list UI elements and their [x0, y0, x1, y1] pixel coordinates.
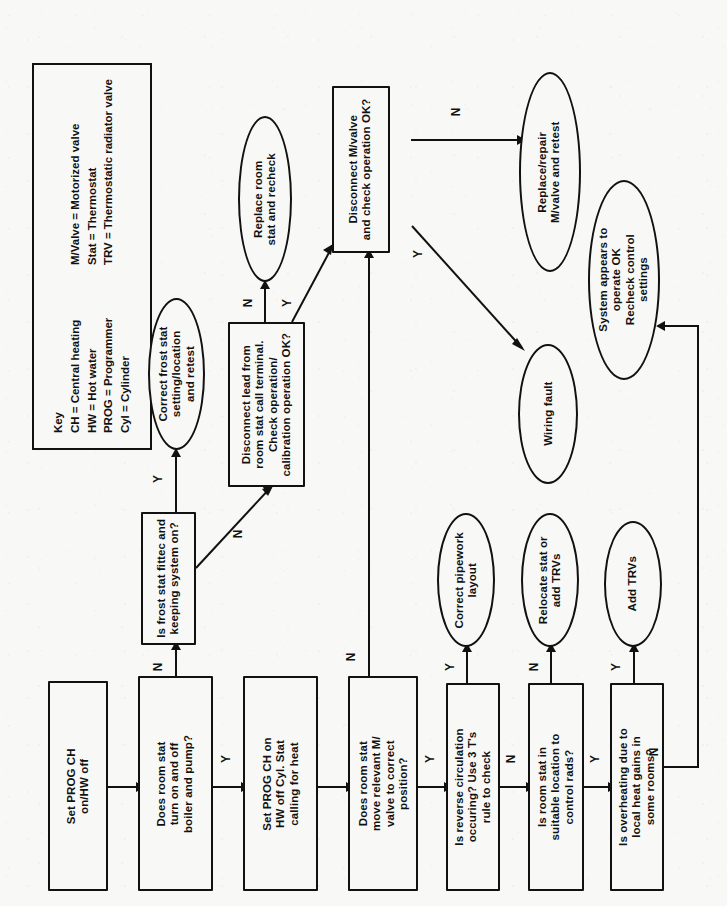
node-frost-stat-label: Is frost stat fittec and keeping system …	[155, 519, 182, 638]
key-row-2-right: TRV = Thermostatic radiator valve	[102, 79, 114, 265]
key-row-0-right: M/Valve = Motorized valve	[69, 124, 81, 266]
node-reverse-circulation-label: Is reverse circulation occuring? Use 3 T…	[453, 728, 493, 845]
node-relocate-stat-label: Relocate stat or add TRVs	[537, 536, 564, 624]
key-row-0-left: CH = Central heating	[67, 266, 84, 434]
node-set-prog-ch[interactable]: Set PROG CH on/HW off	[48, 681, 108, 891]
node-replace-mvalve-label: Replace/repair M/valve and retest	[537, 121, 564, 223]
edge-e4-label: Y	[154, 472, 162, 486]
edge-e18-line-v	[697, 326, 699, 768]
node-wiring-fault-label: Wiring fault	[541, 382, 554, 446]
edge-e18-label: N	[650, 745, 659, 759]
key-heading: Key	[50, 79, 67, 433]
node-system-ok-label: System appears to operate OK Recheck con…	[597, 228, 650, 332]
node-does-room-stat-turn-label: Does room stat turn on and off boiler an…	[156, 734, 196, 832]
node-set-prog-ch-hw-off[interactable]: Set PROG CH on HW off Cyl. Stat calling …	[243, 676, 318, 891]
node-correct-pipework[interactable]: Correct pipework layout	[437, 513, 495, 647]
node-frost-stat[interactable]: Is frost stat fittec and keeping system …	[141, 512, 196, 645]
edge-e13-label: Y	[446, 660, 454, 674]
edge-e2-label: N	[154, 660, 163, 674]
edge-e9-label: N	[347, 650, 356, 664]
key-row-1: HW = Hot waterStat = Thermostat	[84, 79, 101, 433]
node-room-stat-location[interactable]: Is room stat in suitable location to con…	[528, 683, 584, 891]
node-correct-frost-stat[interactable]: Correct frost stat setting/location and …	[148, 298, 205, 450]
node-replace-room-stat-label: Replace room stat and recheck	[252, 153, 279, 245]
key-row-1-right: Stat = Thermostat	[86, 168, 98, 265]
edge-e16-label: Y	[591, 752, 599, 766]
node-relocate-stat[interactable]: Relocate stat or add TRVs	[521, 513, 579, 647]
edge-e15-label: N	[530, 660, 539, 674]
key-row-0: CH = Central heatingM/Valve = Motorized …	[67, 79, 84, 433]
edge-e12-label: Y	[414, 247, 422, 261]
node-reverse-circulation[interactable]: Is reverse circulation occuring? Use 3 T…	[446, 683, 500, 891]
edge-e6-label: N	[244, 296, 253, 310]
edge-e16-line	[584, 786, 610, 788]
edge-e10-label: Y	[426, 752, 434, 766]
edge-e14-label: N	[507, 752, 516, 766]
edge-e18-line-h1	[664, 766, 699, 768]
flowchart-page: KeyCH = Central heatingM/Valve = Motoriz…	[0, 0, 727, 906]
node-disconnect-mvalve[interactable]: Disconnect M/valve and check operation O…	[332, 86, 390, 253]
node-set-prog-ch-label: Set PROG CH on/HW off	[65, 748, 92, 824]
edge-e11-label: N	[452, 105, 461, 119]
node-does-room-stat-move-label: Does room stat move relevant M/ valve to…	[356, 736, 409, 831]
key-legend-box: KeyCH = Central heatingM/Valve = Motoriz…	[32, 63, 152, 450]
node-correct-frost-stat-label: Correct frost stat setting/location and …	[157, 326, 197, 421]
node-correct-pipework-label: Correct pipework layout	[453, 532, 480, 628]
node-add-trvs[interactable]: Add TRVs	[604, 521, 662, 647]
key-row-3: Cyl = Cylinder	[117, 79, 134, 433]
node-room-stat-location-label: Is room stat in suitable location to con…	[536, 734, 576, 841]
edge-e13-line	[466, 647, 468, 683]
edge-e17-line	[633, 647, 635, 683]
node-disconnect-lead[interactable]: Disconnect lead from room stat call term…	[228, 322, 305, 487]
key-row-2-left: PROG = Programmer	[100, 266, 117, 434]
node-overheating[interactable]: Is overheating due to local heat gains i…	[610, 683, 664, 891]
key-row-3-left: Cyl = Cylinder	[117, 266, 134, 434]
node-does-room-stat-move[interactable]: Does room stat move relevant M/ valve to…	[348, 676, 418, 891]
node-disconnect-lead-label: Disconnect lead from room stat call term…	[240, 333, 293, 477]
node-replace-mvalve[interactable]: Replace/repair M/valve and retest	[519, 72, 581, 272]
edge-e5-label: N	[234, 527, 243, 541]
node-replace-room-stat[interactable]: Replace room stat and recheck	[238, 116, 292, 282]
node-set-prog-ch-hw-off-label: Set PROG CH on HW off Cyl. Stat calling …	[261, 737, 301, 830]
edge-e15-line	[550, 647, 552, 683]
edge-e3-label: Y	[222, 752, 230, 766]
node-system-ok[interactable]: System appears to operate OK Recheck con…	[588, 180, 660, 380]
edge-e17-label: Y	[612, 660, 620, 674]
edge-e14-line	[500, 786, 528, 788]
key-row-2: PROG = ProgrammerTRV = Thermostatic radi…	[100, 79, 117, 433]
node-disconnect-mvalve-label: Disconnect M/valve and check operation O…	[348, 99, 375, 241]
edge-e18-arrowhead	[656, 321, 665, 331]
node-add-trvs-label: Add TRVs	[626, 556, 639, 612]
key-row-1-left: HW = Hot water	[84, 266, 101, 434]
node-does-room-stat-turn[interactable]: Does room stat turn on and off boiler an…	[138, 676, 213, 891]
edge-e18-line-h2	[664, 325, 699, 327]
edge-e7-label: Y	[283, 296, 291, 310]
key-legend-content: KeyCH = Central heatingM/Valve = Motoriz…	[17, 79, 167, 433]
node-wiring-fault[interactable]: Wiring fault	[518, 344, 578, 484]
